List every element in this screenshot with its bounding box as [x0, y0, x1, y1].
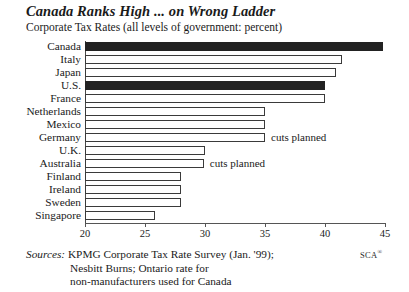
sources-note: Sources: KPMG Corporate Tax Rate Survey … — [26, 248, 274, 289]
bar-annotation: cuts planned — [210, 157, 265, 169]
bar-row: Australiacuts planned — [85, 158, 385, 171]
category-label: Mexico — [46, 119, 81, 130]
sources-line-2: Nesbitt Burns; Ontario rate for — [26, 262, 274, 276]
x-axis-line — [85, 223, 385, 224]
credit-mark: SCA® — [360, 249, 382, 260]
bar-row: Netherlands — [85, 106, 385, 119]
category-label: Canada — [47, 41, 81, 52]
x-axis-tick — [205, 223, 206, 227]
bar — [85, 94, 325, 103]
bar-row: Germanycuts planned — [85, 132, 385, 145]
bar-row: Japan — [85, 67, 385, 80]
bar-row: U.S. — [85, 80, 385, 93]
sources-text-1: KPMG Corporate Tax Rate Survey (Jan. '99… — [68, 248, 274, 260]
bar — [85, 185, 181, 194]
category-label: U.K. — [59, 145, 81, 156]
credit-text: SCA — [360, 250, 377, 260]
bar — [85, 133, 265, 142]
category-label: Germany — [39, 132, 81, 143]
x-axis-tick-label: 45 — [372, 228, 398, 239]
x-axis-tick-label: 25 — [132, 228, 158, 239]
plot-area: CanadaItalyJapanU.S.FranceNetherlandsMex… — [85, 41, 385, 223]
bar — [85, 120, 265, 129]
bar — [85, 172, 181, 181]
bar-row: Ireland — [85, 184, 385, 197]
bar — [85, 159, 204, 168]
category-label: Singapore — [35, 210, 81, 221]
sources-label: Sources: — [26, 248, 65, 260]
bar-row: Canada — [85, 41, 385, 54]
chart-figure: Canada Ranks High ... on Wrong Ladder Co… — [0, 0, 409, 292]
x-axis-tick — [325, 223, 326, 227]
bar — [85, 198, 181, 207]
x-axis-tick-label: 40 — [312, 228, 338, 239]
sources-line-1: Sources: KPMG Corporate Tax Rate Survey … — [26, 248, 274, 262]
category-label: France — [50, 93, 81, 104]
registered-icon: ® — [377, 249, 382, 255]
category-label: Sweden — [45, 197, 81, 208]
bar-row: Sweden — [85, 197, 385, 210]
x-axis-tick — [265, 223, 266, 227]
x-axis-tick — [85, 223, 86, 227]
category-label: Japan — [55, 67, 81, 78]
bar-row: Mexico — [85, 119, 385, 132]
x-axis-tick — [385, 223, 386, 227]
bar — [85, 146, 205, 155]
category-label: Finland — [46, 171, 81, 182]
chart-subtitle: Corporate Tax Rates (all levels of gover… — [26, 21, 282, 33]
sources-line-3: non-manufacturers used for Canada — [26, 275, 274, 289]
chart-title: Canada Ranks High ... on Wrong Ladder — [26, 3, 275, 20]
x-axis-tick-label: 20 — [72, 228, 98, 239]
bar — [85, 42, 383, 51]
bar — [85, 68, 336, 77]
bar — [85, 211, 155, 220]
x-axis-tick — [145, 223, 146, 227]
bar-row: Italy — [85, 54, 385, 67]
category-label: Netherlands — [26, 106, 81, 117]
category-label: Australia — [40, 158, 81, 169]
x-axis-tick-label: 35 — [252, 228, 278, 239]
category-label: Italy — [60, 54, 81, 65]
bar-annotation: cuts planned — [271, 131, 326, 143]
category-label: U.S. — [61, 80, 81, 91]
bar-row: Finland — [85, 171, 385, 184]
bar — [85, 81, 325, 90]
x-axis-tick-label: 30 — [192, 228, 218, 239]
bar-row: France — [85, 93, 385, 106]
bar-row: Singapore — [85, 210, 385, 223]
bar — [85, 107, 265, 116]
category-label: Ireland — [49, 184, 81, 195]
bar — [85, 55, 342, 64]
